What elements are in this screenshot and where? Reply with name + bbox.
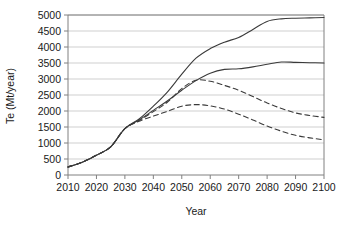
x-tick-label: 2040 (142, 181, 166, 193)
x-tick-label: 2050 (170, 181, 194, 193)
y-tick-label: 1000 (38, 137, 62, 149)
y-tick-label: 500 (43, 153, 61, 165)
chart-figure: 0500100015002000250030003500400045005000… (0, 0, 347, 225)
x-tick-label: 2070 (227, 181, 251, 193)
x-tick-label: 2100 (312, 181, 336, 193)
y-tick-label: 2500 (38, 89, 62, 101)
x-axis-ticks (68, 175, 324, 179)
x-tick-label: 2020 (85, 181, 109, 193)
y-tick-label: 0 (55, 169, 61, 181)
line-chart: 0500100015002000250030003500400045005000… (0, 0, 347, 225)
x-tick-label: 2080 (255, 181, 279, 193)
y-tick-label: 3000 (38, 73, 62, 85)
x-tick-label: 2060 (199, 181, 223, 193)
y-tick-label: 4500 (38, 25, 62, 37)
y-tick-label: 3500 (38, 57, 62, 69)
x-axis-title: Year (185, 205, 207, 217)
x-tick-label: 2030 (113, 181, 137, 193)
x-tick-label: 2010 (56, 181, 80, 193)
y-tick-label: 2000 (38, 105, 62, 117)
x-tick-label: 2090 (284, 181, 308, 193)
y-tick-label: 1500 (38, 121, 62, 133)
y-axis-ticks (64, 15, 68, 175)
y-tick-label: 5000 (38, 9, 62, 21)
y-tick-label: 4000 (38, 41, 62, 53)
y-axis-title: Te (Mt/year) (4, 68, 16, 124)
y-axis-tick-labels: 0500100015002000250030003500400045005000 (38, 9, 62, 181)
x-axis-tick-labels: 2010202020302040205020602070208020902100 (56, 181, 336, 193)
